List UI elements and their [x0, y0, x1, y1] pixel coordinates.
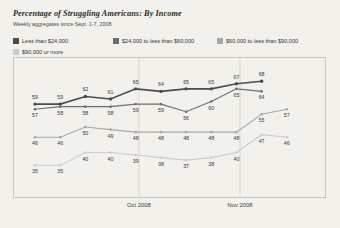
data-point-marker[interactable] — [235, 151, 238, 154]
data-point-marker[interactable] — [109, 128, 112, 131]
data-point-marker[interactable] — [59, 105, 62, 108]
data-point-marker[interactable] — [84, 151, 87, 154]
data-point-label: 38 — [158, 161, 164, 167]
data-point-marker[interactable] — [160, 103, 163, 106]
data-point-label: 48 — [233, 135, 239, 141]
data-point-label: 38 — [208, 161, 214, 167]
data-point-marker[interactable] — [235, 131, 238, 134]
data-point-marker[interactable] — [185, 110, 188, 113]
x-axis-labels: Oct 2008Nov 2008 — [13, 200, 326, 214]
data-point-marker[interactable] — [260, 133, 263, 136]
data-point-marker[interactable] — [185, 159, 188, 162]
data-point-marker[interactable] — [260, 90, 263, 93]
data-point-marker[interactable] — [260, 79, 263, 82]
x-axis-tick-label: Nov 2008 — [228, 202, 253, 208]
x-axis-tick-label: Oct 2008 — [127, 202, 151, 208]
data-point-label: 59 — [57, 94, 63, 100]
data-point-marker[interactable] — [210, 156, 213, 159]
data-point-label: 40 — [233, 156, 239, 162]
data-point-label: 68 — [259, 71, 265, 77]
legend-item-less-than-24000[interactable]: Less than $24,000 — [13, 31, 109, 42]
data-point-marker[interactable] — [109, 97, 112, 100]
data-point-label: 59 — [158, 107, 164, 113]
data-point-marker[interactable] — [210, 87, 213, 90]
data-point-label: 48 — [183, 135, 189, 141]
data-point-marker[interactable] — [185, 131, 188, 134]
data-point-label: 56 — [183, 115, 189, 121]
data-point-label: 55 — [259, 117, 265, 123]
data-point-label: 64 — [158, 81, 164, 87]
data-point-marker[interactable] — [34, 108, 37, 111]
legend-item-24000-to-60000[interactable]: $24,000 to less than $60,000 — [113, 31, 213, 42]
series-layer — [33, 79, 288, 166]
data-point-marker[interactable] — [134, 154, 137, 157]
month-divider-lines — [139, 58, 240, 197]
series-line — [35, 89, 262, 112]
data-point-label: 60 — [208, 105, 214, 111]
line-chart-plot: 5959626165646565676857585858595956606564… — [13, 57, 326, 198]
data-point-label: 40 — [108, 156, 114, 162]
legend-item-label: $24,000 to less than $60,000 — [122, 38, 194, 44]
data-point-label: 46 — [57, 140, 63, 146]
legend-swatch-icon — [217, 38, 223, 44]
data-point-marker[interactable] — [286, 108, 289, 111]
data-point-label: 37 — [183, 163, 189, 169]
data-point-label: 62 — [82, 86, 88, 92]
data-point-label: 58 — [82, 110, 88, 116]
series-line — [35, 81, 262, 104]
data-point-marker[interactable] — [134, 87, 137, 90]
data-point-marker[interactable] — [58, 102, 61, 105]
data-point-marker[interactable] — [109, 151, 112, 154]
data-point-label: 65 — [183, 79, 189, 85]
data-point-marker[interactable] — [260, 113, 263, 116]
chart-subtitle: Weekly aggregates since Sept. 1-7, 2008 — [13, 21, 112, 27]
data-point-marker[interactable] — [159, 90, 162, 93]
data-point-marker[interactable] — [84, 126, 87, 129]
data-point-label: 48 — [208, 135, 214, 141]
data-point-label: 48 — [158, 135, 164, 141]
data-point-marker[interactable] — [235, 88, 238, 91]
data-point-marker[interactable] — [160, 131, 163, 134]
legend-item-label: $90,000 or more — [22, 49, 63, 55]
data-point-label: 35 — [57, 168, 63, 174]
data-point-label: 35 — [32, 168, 38, 174]
data-point-marker[interactable] — [210, 131, 213, 134]
data-point-label: 40 — [82, 156, 88, 162]
data-point-label: 65 — [233, 92, 239, 98]
data-point-label: 49 — [108, 133, 114, 139]
data-point-marker[interactable] — [84, 95, 87, 98]
data-point-marker[interactable] — [235, 82, 238, 85]
legend-item-90000-or-more[interactable]: $90,000 or more — [13, 42, 63, 53]
legend-swatch-icon — [113, 38, 119, 44]
data-point-marker[interactable] — [59, 136, 62, 139]
data-point-label: 47 — [259, 138, 265, 144]
data-point-marker[interactable] — [184, 87, 187, 90]
data-point-label: 67 — [233, 74, 239, 80]
data-point-marker[interactable] — [134, 103, 137, 106]
chart-title: Percentage of Struggling Americans: By I… — [13, 9, 182, 18]
data-point-label: 65 — [133, 79, 139, 85]
data-point-label: 50 — [82, 130, 88, 136]
legend-item-60000-to-90000[interactable]: $60,000 to less than $90,000 — [217, 31, 298, 42]
data-point-label: 46 — [32, 140, 38, 146]
data-point-marker[interactable] — [160, 156, 163, 159]
chart-legend: Less than $24,000 $24,000 to less than $… — [13, 31, 333, 53]
data-point-marker[interactable] — [34, 164, 37, 167]
data-point-marker[interactable] — [134, 131, 137, 134]
chart-card: Percentage of Struggling Americans: By I… — [0, 0, 340, 228]
data-point-marker[interactable] — [34, 136, 37, 139]
data-point-label: 48 — [133, 135, 139, 141]
legend-row-top: Less than $24,000 $24,000 to less than $… — [13, 31, 333, 42]
data-point-marker[interactable] — [286, 136, 289, 139]
data-point-label: 57 — [284, 112, 290, 118]
legend-swatch-icon — [13, 49, 19, 55]
data-point-marker[interactable] — [33, 102, 36, 105]
data-point-label: 58 — [57, 110, 63, 116]
data-point-label: 39 — [133, 158, 139, 164]
data-point-label: 46 — [284, 140, 290, 146]
data-point-marker[interactable] — [109, 105, 112, 108]
data-point-marker[interactable] — [84, 105, 87, 108]
legend-swatch-icon — [13, 38, 19, 44]
data-point-marker[interactable] — [210, 100, 213, 103]
data-point-marker[interactable] — [59, 164, 62, 167]
